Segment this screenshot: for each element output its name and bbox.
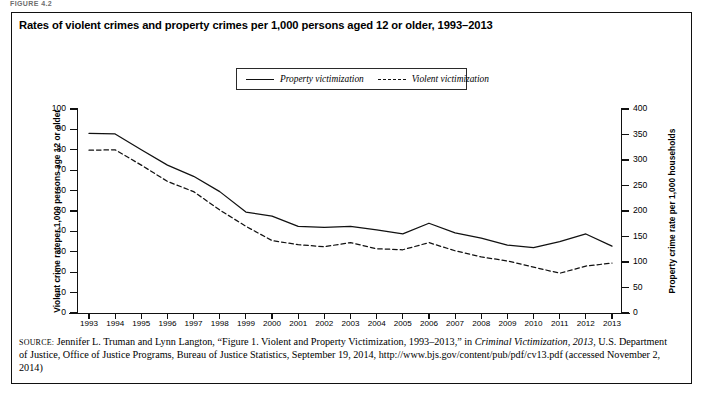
series-line-violent — [89, 150, 612, 273]
source-line: Jennifer L. Truman and Lynn Langton, “Fi… — [54, 336, 475, 347]
series-line-property — [89, 133, 612, 247]
source-note: SOURCE: Jennifer L. Truman and Lynn Lang… — [19, 336, 673, 374]
source-italic-title: Criminal Victimization, 2013 — [475, 336, 593, 347]
figure-page: FIGURE 4.2 Rates of violent crimes and p… — [0, 0, 705, 394]
chart-series-layer — [0, 0, 705, 394]
source-prefix: SOURCE: — [19, 338, 54, 347]
